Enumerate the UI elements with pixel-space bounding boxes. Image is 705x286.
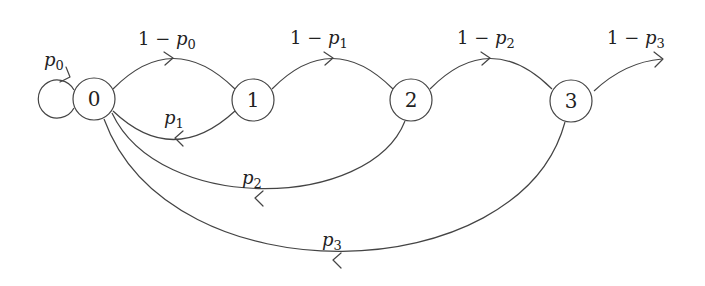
edge-3-to-exit: 1 − p3: [594, 27, 665, 91]
edge-label-1-0: p1: [164, 107, 184, 131]
edge-label-3-0: p3: [322, 229, 342, 253]
edge-label-3-exit: 1 − p3: [607, 27, 665, 51]
edge-label-0-1: 1 − p0: [138, 28, 196, 52]
node-3: 3: [550, 80, 592, 122]
edge-0-to-0: p0: [38, 49, 74, 118]
markov-chain-diagram: p0 1 − p0 p1 1 − p1 p2 1 − p2 p3: [0, 0, 705, 286]
edge-label-2-3: 1 − p2: [457, 27, 515, 51]
edge-label-0-0: p0: [44, 49, 64, 73]
edge-3-to-0: p3: [104, 119, 565, 268]
node-label: 1: [247, 88, 260, 112]
edge-2-to-3: 1 − p2: [430, 27, 552, 89]
edge-1-to-2: 1 − p1: [272, 27, 393, 89]
node-1: 1: [232, 79, 274, 121]
arrowhead-icon: [333, 253, 341, 268]
node-label: 3: [565, 89, 578, 113]
node-0: 0: [73, 78, 115, 120]
edge-0-to-1: 1 − p0: [113, 28, 235, 89]
edge-label-1-2: 1 − p1: [290, 27, 348, 51]
edge-label-2-0: p2: [242, 167, 262, 191]
node-label: 2: [405, 88, 418, 112]
node-label: 0: [88, 87, 101, 111]
arrowhead-icon: [255, 191, 263, 206]
node-2: 2: [390, 79, 432, 121]
